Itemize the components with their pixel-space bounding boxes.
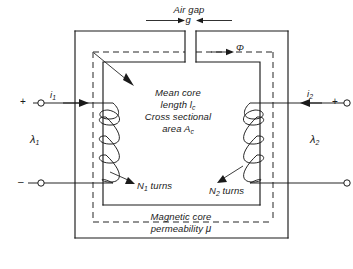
right-coil-turn-5 (244, 155, 261, 183)
current-1-label: i1 (50, 89, 56, 103)
terminal-left-top[interactable] (38, 100, 44, 106)
mean-core-leader-arrowhead (123, 73, 134, 86)
lambda-1-label: λ1 (30, 134, 39, 148)
air-gap-dim-left-arrowhead (178, 18, 185, 23)
flux-symbol-label: Φ (236, 42, 244, 53)
right-coil-turn-4 (244, 136, 264, 163)
cross-section-line2: area Ac (162, 123, 194, 137)
left-winding-coil (99, 103, 119, 183)
polarity-left-negative: – (18, 176, 24, 187)
lambda-1-subscript: 1 (36, 139, 40, 146)
air-gap-dim-right-arrowhead (196, 18, 203, 23)
terminal-right-bottom[interactable] (344, 180, 350, 186)
n1-turns-leader-arrowhead (125, 177, 135, 184)
current-2-label: i2 (307, 88, 313, 102)
cross-section-area-text: area A (162, 123, 190, 134)
current-2-subscript: 2 (309, 93, 313, 100)
flux-arrow-head (226, 49, 234, 55)
magnetic-core-label: Magnetic core (151, 211, 212, 222)
current-1-subscript: 1 (52, 94, 56, 101)
cross-section-area-subscript: c (190, 128, 194, 135)
left-coil-turn-4 (99, 136, 119, 163)
n1-turns-label: N1 turns (137, 180, 172, 194)
n2-turns-leader-line (224, 166, 243, 178)
permeability-label: permeability μ (151, 223, 212, 234)
mean-core-leader-line (94, 53, 127, 80)
polarity-left-positive: + (20, 96, 26, 107)
current-1-arrow-head (79, 99, 89, 107)
permeability-text: permeability (151, 223, 206, 234)
lambda-2-subscript: 2 (316, 139, 320, 146)
n2-turns-leader-arrowhead (217, 175, 227, 183)
mean-core-length-text: length l (161, 99, 192, 110)
polarity-right-positive: + (332, 96, 338, 107)
lambda-2-label: λ2 (310, 134, 319, 148)
right-coil-turn-3 (244, 117, 264, 144)
n2-turns-symbol: N (209, 185, 216, 196)
mean-core-line1: Mean core (155, 87, 201, 98)
mean-core-length-subscript: c (192, 104, 196, 111)
air-gap-symbol-label: g (186, 14, 191, 25)
left-coil-turn-3 (99, 117, 119, 144)
n2-turns-label: N2 turns (209, 185, 244, 199)
n1-turns-word: turns (148, 180, 172, 191)
permeability-symbol: μ (206, 223, 212, 234)
n2-turns-word: turns (220, 185, 244, 196)
terminal-left-bottom[interactable] (38, 180, 44, 186)
cross-section-line1: Cross sectional (145, 111, 211, 122)
left-coil-turn-5 (102, 155, 119, 183)
right-winding-coil (243, 103, 263, 183)
n1-turns-symbol: N (137, 180, 144, 191)
core-inner-window-right (196, 62, 260, 205)
terminal-right-top[interactable] (344, 100, 350, 106)
